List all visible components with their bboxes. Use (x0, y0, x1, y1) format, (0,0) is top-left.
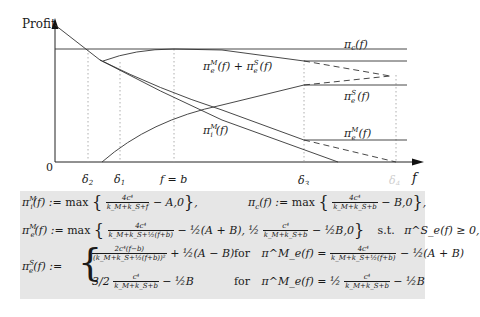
formula-pi-c: πc(f) := max { 4c⁴k_M+k_S+b − B,0}, (248, 193, 426, 212)
formula-pi-eS-case2: 3/2 c⁴k_M+k_S+b − ½B (92, 273, 194, 290)
tick-delta4: δ4 (389, 174, 400, 185)
formula-pi-iM: πMi(f) := max { 4c⁴k_M+k_S+f − A,0}, (22, 193, 198, 212)
origin-label: 0 (46, 161, 53, 174)
tick-delta3: δ3 (298, 174, 310, 185)
tick-delta2: δ2 (82, 173, 94, 185)
profit-diagram: Profit 0 f δ2 δ1 f = b δ3 δ4 πc(f) πMe(f… (0, 0, 444, 185)
tick-f-equals-b: f = b (159, 173, 187, 185)
formula-pi-eS-case2-cond: for π^M_e(f) = ½ c⁴k_M+k_S+b − ½B (234, 273, 425, 290)
curve-pi-iM (100, 60, 338, 162)
y-axis-label: Profit (22, 17, 56, 31)
formula-pi-eS-case1: 2c⁴(f−b)(k_M+k_S+½(f+b))² + ½(A − B) (92, 245, 234, 262)
formula-block: πMi(f) := max { 4c⁴k_M+k_S+f − A,0}, πc(… (20, 191, 425, 299)
formula-pi-eS-case1-cond: for π^M_e(f) = 4c⁴k_M+k_S+½(f+b) − ½(A +… (234, 245, 464, 262)
x-axis-label: f (411, 170, 419, 185)
curve-pi-eM-dashed (304, 140, 396, 162)
label-pi-c: πc(f) (343, 38, 368, 52)
x-axis-arrow-icon (412, 159, 424, 166)
label-pi-eS: πSe(f) (343, 89, 370, 105)
tick-delta1: δ1 (114, 173, 125, 185)
curve-pi-eM-plus-pi-eS-dashed (304, 61, 390, 76)
label-pi-iM: πMi(f) (202, 123, 228, 139)
formula-pi-eS-label: πSe(f) := (22, 259, 62, 275)
curve-pi-eS-dashed (304, 76, 390, 85)
label-pi-eM-plus-pi-eS: πMe(f) + πSe(f) (202, 59, 272, 75)
formula-pi-eM: πMe(f) := max { 4c⁴k_M+k_S+½(f+b) − ½(A … (22, 221, 480, 240)
